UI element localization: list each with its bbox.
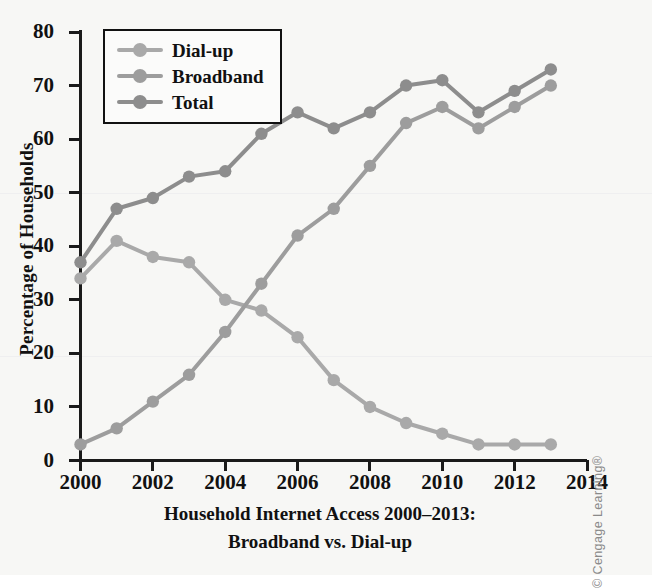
data-point bbox=[472, 122, 484, 134]
x-tick-label: 2006 bbox=[258, 472, 338, 493]
legend-item-broadband: Broadband bbox=[105, 63, 280, 89]
y-tick-mark bbox=[69, 245, 80, 248]
data-point bbox=[400, 79, 412, 91]
data-point bbox=[328, 374, 340, 386]
data-point bbox=[436, 101, 448, 113]
data-point bbox=[291, 106, 303, 118]
data-point bbox=[400, 117, 412, 129]
data-point bbox=[147, 395, 159, 407]
y-tick-mark bbox=[69, 84, 80, 87]
data-point bbox=[328, 203, 340, 215]
data-point bbox=[472, 438, 484, 450]
data-point bbox=[183, 256, 195, 268]
data-point bbox=[472, 106, 484, 118]
y-tick-label: 70 bbox=[0, 75, 54, 96]
y-tick-label: 0 bbox=[0, 450, 54, 471]
data-point bbox=[255, 128, 267, 140]
y-axis-title: Percentage of Households bbox=[16, 99, 38, 399]
data-point bbox=[508, 85, 520, 97]
x-tick-label: 2000 bbox=[41, 472, 121, 493]
data-point bbox=[436, 74, 448, 86]
series-line bbox=[81, 241, 551, 445]
legend-label: Total bbox=[172, 93, 214, 112]
x-tick-label: 2012 bbox=[475, 472, 555, 493]
faint-scanline bbox=[0, 193, 652, 194]
legend-label: Dial-up bbox=[172, 41, 233, 60]
x-axis-line bbox=[79, 459, 587, 462]
data-point bbox=[545, 63, 557, 75]
data-point bbox=[255, 304, 267, 316]
series-broadband bbox=[74, 79, 557, 450]
x-tick-label: 2010 bbox=[402, 472, 482, 493]
data-point bbox=[508, 438, 520, 450]
legend-marker-icon bbox=[133, 69, 147, 83]
y-tick-mark bbox=[69, 138, 80, 141]
data-point bbox=[291, 229, 303, 241]
series-line bbox=[81, 86, 551, 445]
legend-swatch-icon bbox=[117, 69, 163, 83]
y-tick-mark bbox=[69, 191, 80, 194]
data-point bbox=[328, 122, 340, 134]
data-point bbox=[219, 165, 231, 177]
x-tick-label: 2014 bbox=[547, 472, 627, 493]
caption-line-2: Broadband vs. Dial-up bbox=[60, 528, 580, 556]
y-tick-mark bbox=[69, 352, 80, 355]
x-tick-label: 2004 bbox=[185, 472, 265, 493]
legend-item-total: Total bbox=[105, 89, 280, 115]
data-point bbox=[219, 294, 231, 306]
data-point bbox=[291, 331, 303, 343]
caption-line-1: Household Internet Access 2000–2013: bbox=[60, 500, 580, 528]
data-point bbox=[400, 417, 412, 429]
faint-scanline bbox=[0, 356, 652, 357]
data-point bbox=[545, 79, 557, 91]
data-point bbox=[508, 101, 520, 113]
data-point bbox=[110, 422, 122, 434]
data-point bbox=[110, 235, 122, 247]
y-tick-label: 10 bbox=[0, 396, 54, 417]
legend-marker-icon bbox=[133, 43, 147, 57]
x-tick-label: 2008 bbox=[330, 472, 410, 493]
legend-item-dial-up: Dial-up bbox=[105, 37, 280, 63]
y-tick-mark bbox=[69, 405, 80, 408]
legend-swatch-icon bbox=[117, 95, 163, 109]
copyright-credit: © Cengage Learning® bbox=[591, 418, 605, 588]
series-dial-up bbox=[74, 235, 557, 451]
data-point bbox=[545, 438, 557, 450]
data-point bbox=[436, 428, 448, 440]
data-point bbox=[364, 401, 376, 413]
legend-swatch-icon bbox=[117, 43, 163, 57]
y-tick-mark bbox=[69, 31, 80, 34]
x-tick-label: 2002 bbox=[113, 472, 193, 493]
data-point bbox=[364, 160, 376, 172]
data-point bbox=[183, 170, 195, 182]
data-point bbox=[183, 369, 195, 381]
data-point bbox=[219, 326, 231, 338]
figure-caption: Household Internet Access 2000–2013: Bro… bbox=[60, 500, 580, 555]
data-point bbox=[110, 203, 122, 215]
y-tick-mark bbox=[69, 298, 80, 301]
data-point bbox=[255, 278, 267, 290]
legend-marker-icon bbox=[133, 95, 147, 109]
chart-legend: Dial-upBroadbandTotal bbox=[103, 29, 282, 124]
legend-label: Broadband bbox=[172, 67, 264, 86]
data-point bbox=[147, 251, 159, 263]
data-point bbox=[364, 106, 376, 118]
y-tick-label: 80 bbox=[0, 21, 54, 42]
